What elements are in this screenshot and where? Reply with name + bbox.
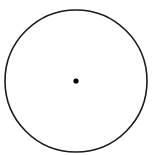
diagram-canvas xyxy=(0,0,153,155)
center-point xyxy=(73,78,78,83)
